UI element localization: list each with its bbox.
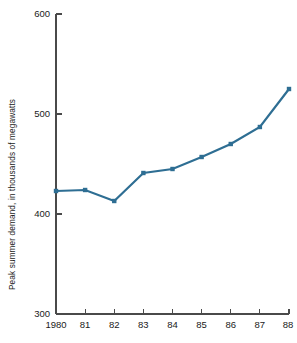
x-tick-label: 87 [255,319,266,330]
series-line-peak-summer-demand [56,89,289,201]
x-tick-label: 88 [283,319,294,330]
chart-canvas: 600500400300 19808182838485868788 Peak s… [0,0,297,343]
x-tick-label: 84 [167,319,178,330]
data-point-marker [141,171,145,175]
y-tick-label: 600 [34,8,50,19]
data-point-marker [258,125,262,129]
x-tick-label: 1980 [45,319,66,330]
x-tick-label: 81 [80,319,91,330]
data-point-marker [112,199,116,203]
y-tick-label: 300 [34,308,50,319]
data-point-marker [199,155,203,159]
data-point-marker [287,87,291,91]
line-chart-figure: 600500400300 19808182838485868788 Peak s… [0,0,297,343]
x-tick-label: 86 [225,319,236,330]
y-axis-ticks: 600500400300 [34,8,62,319]
data-point-marker [83,188,87,192]
x-tick-label: 85 [196,319,207,330]
y-axis-title: Peak summer demand, in thousands of mega… [8,99,17,290]
data-point-marker [170,167,174,171]
y-tick-label: 500 [34,108,50,119]
data-point-marker [229,142,233,146]
data-point-marker [54,189,58,193]
data-series-group [54,87,291,203]
x-axis-ticks: 19808182838485868788 [45,309,293,330]
y-tick-label: 400 [34,208,50,219]
x-tick-label: 82 [109,319,120,330]
series-markers [54,87,291,203]
x-tick-label: 83 [138,319,149,330]
